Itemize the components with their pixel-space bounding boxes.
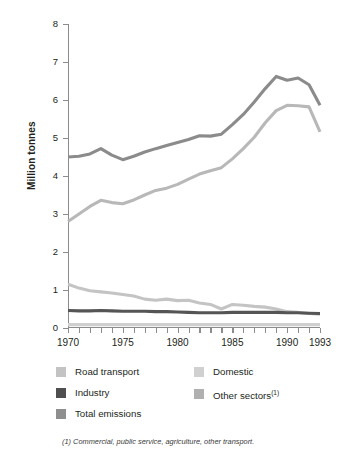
legend-label: Domestic	[213, 366, 253, 377]
legend-item: Industry	[56, 387, 109, 398]
legend-item: Domestic	[194, 366, 253, 377]
x-tick-label: 1975	[103, 337, 143, 348]
legend-swatch	[56, 409, 66, 419]
x-tick-mark	[298, 328, 299, 333]
y-tick-label: 0	[36, 323, 58, 333]
chart-footnote: (1) Commercial, public service, agricult…	[62, 437, 332, 446]
x-tick-mark	[101, 328, 102, 333]
x-tick-mark	[265, 328, 266, 333]
y-tick-label: 7	[36, 57, 58, 67]
legend-swatch	[56, 367, 66, 377]
y-tick-label: 1	[36, 285, 58, 295]
series-line	[68, 105, 320, 221]
legend-label: Road transport	[75, 366, 139, 377]
x-tick-label: 1993	[300, 337, 340, 348]
x-tick-mark	[112, 328, 113, 333]
x-tick-mark	[320, 328, 321, 333]
y-tick-label: 4	[36, 171, 58, 181]
legend-item: Other sectors(1)	[194, 387, 279, 401]
x-tick-mark	[276, 328, 277, 333]
emissions-line-chart: Million tonnes 012345678 197019751980198…	[0, 0, 346, 469]
x-tick-mark	[79, 328, 80, 333]
legend-swatch	[56, 388, 66, 398]
x-tick-mark	[167, 328, 168, 333]
series-line	[68, 76, 320, 159]
y-tick-label: 6	[36, 95, 58, 105]
legend-label: Total emissions	[75, 408, 141, 419]
y-tick-label: 5	[36, 133, 58, 143]
x-tick-mark	[243, 328, 244, 333]
plot-area	[68, 24, 320, 328]
x-tick-mark	[145, 328, 146, 333]
legend-item: Total emissions	[56, 408, 141, 419]
legend-swatch	[194, 389, 204, 399]
x-tick-mark	[178, 328, 179, 333]
legend-swatch	[194, 367, 204, 377]
legend-label: Other sectors(1)	[213, 387, 279, 401]
x-tick-mark	[68, 328, 69, 333]
x-tick-mark	[254, 328, 255, 333]
x-tick-mark	[287, 328, 288, 333]
x-tick-mark	[189, 328, 190, 333]
chart-legend: Road transportIndustryTotal emissionsDom…	[56, 366, 316, 424]
x-tick-mark	[90, 328, 91, 333]
x-tick-mark	[123, 328, 124, 333]
legend-label: Industry	[75, 387, 109, 398]
x-tick-label: 1985	[212, 337, 252, 348]
x-tick-mark	[309, 328, 310, 333]
x-tick-label: 1970	[48, 337, 88, 348]
y-tick-label: 8	[36, 19, 58, 29]
x-tick-mark	[210, 328, 211, 333]
x-tick-mark	[221, 328, 222, 333]
x-tick-mark	[134, 328, 135, 333]
y-tick-label: 2	[36, 247, 58, 257]
x-tick-mark	[232, 328, 233, 333]
y-tick-label: 3	[36, 209, 58, 219]
legend-footnote-marker: (1)	[271, 389, 279, 396]
legend-item: Road transport	[56, 366, 139, 377]
x-tick-label: 1980	[158, 337, 198, 348]
x-tick-mark	[156, 328, 157, 333]
series-canvas	[68, 24, 320, 328]
x-tick-mark	[199, 328, 200, 333]
